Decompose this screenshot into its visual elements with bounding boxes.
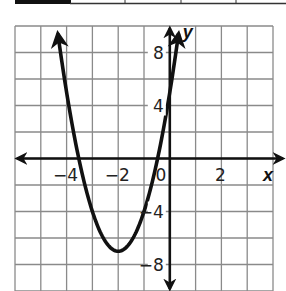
y-tick-label: −8 xyxy=(139,255,164,275)
y-tick-label: 4 xyxy=(153,96,164,116)
x-axis-label: x xyxy=(262,165,274,185)
tick-labels: −4−20284−4−8xy xyxy=(53,22,274,275)
x-tick-label: 2 xyxy=(215,165,226,185)
axes xyxy=(17,28,283,289)
y-axis-label: y xyxy=(182,22,194,42)
y-tick-label: −4 xyxy=(139,202,164,222)
origin-label: 0 xyxy=(155,165,166,185)
x-tick-label: −4 xyxy=(53,165,78,185)
x-tick-label: −2 xyxy=(105,165,130,185)
y-tick-label: 8 xyxy=(153,43,164,63)
coordinate-plane: −4−20284−4−8xy xyxy=(0,0,286,291)
